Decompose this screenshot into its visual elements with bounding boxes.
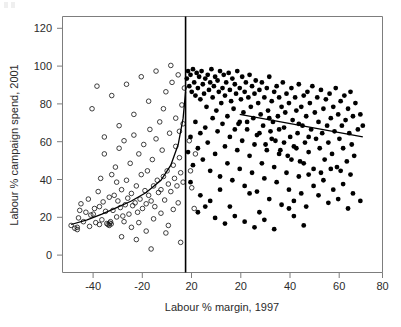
- data-point: [287, 187, 292, 192]
- data-point: [247, 191, 252, 196]
- data-point: [90, 106, 95, 111]
- data-point: [119, 234, 124, 239]
- data-point: [166, 223, 171, 228]
- data-point: [132, 133, 137, 138]
- data-point: [169, 189, 174, 194]
- data-point: [84, 210, 89, 215]
- data-point: [223, 144, 228, 149]
- data-point: [344, 159, 349, 164]
- data-point: [232, 82, 237, 87]
- data-point: [159, 211, 164, 216]
- data-point: [323, 97, 328, 102]
- data-point: [307, 101, 312, 106]
- data-point: [358, 199, 363, 204]
- data-point: [240, 138, 245, 143]
- data-point: [348, 172, 353, 177]
- data-point: [245, 127, 250, 132]
- x-tick-label-zero: 20: [185, 280, 197, 292]
- data-point: [170, 80, 175, 85]
- data-point: [227, 88, 232, 93]
- data-point: [188, 72, 193, 77]
- data-point: [97, 204, 102, 209]
- data-point: [247, 153, 252, 158]
- data-point: [159, 187, 164, 192]
- y-tick-label-40: 40: [40, 174, 52, 186]
- data-point: [207, 88, 212, 93]
- data-point: [311, 167, 316, 172]
- data-point: [303, 140, 308, 145]
- data-point: [122, 219, 127, 224]
- data-point: [245, 120, 250, 125]
- data-point: [272, 227, 277, 232]
- data-point: [261, 123, 266, 128]
- data-point: [199, 69, 204, 74]
- left-fit-curve: [71, 92, 185, 225]
- data-point: [259, 161, 264, 166]
- data-point: [211, 84, 216, 89]
- data-point: [226, 71, 231, 76]
- data-point: [242, 219, 247, 224]
- data-point: [223, 221, 228, 226]
- data-point: [304, 114, 309, 119]
- x-tick-label-80: 80: [376, 280, 388, 292]
- data-point: [322, 157, 327, 162]
- data-point: [172, 176, 177, 181]
- data-point: [299, 191, 304, 196]
- data-point: [310, 84, 315, 89]
- data-point: [193, 120, 198, 125]
- data-point: [192, 80, 197, 85]
- data-point: [176, 73, 181, 78]
- data-point: [220, 86, 225, 91]
- data-point: [193, 93, 198, 98]
- data-point: [353, 101, 358, 106]
- figure-container: 0 20 40 60 80 100 120 -40 -20 20 20 40: [0, 0, 401, 327]
- data-point: [200, 82, 205, 87]
- x-tick-label-60: 60: [333, 280, 345, 292]
- data-point: [325, 123, 330, 128]
- data-point: [287, 101, 292, 106]
- data-point: [274, 84, 279, 89]
- data-point: [342, 93, 347, 98]
- data-point: [121, 214, 126, 219]
- data-point: [279, 202, 284, 207]
- data-point: [215, 129, 220, 134]
- data-point: [141, 142, 146, 147]
- data-point: [330, 152, 335, 157]
- data-point: [114, 215, 119, 220]
- data-point: [263, 142, 268, 147]
- data-point: [299, 104, 304, 109]
- data-point: [191, 67, 196, 72]
- data-point: [232, 214, 237, 219]
- data-point: [188, 135, 193, 140]
- data-point: [195, 86, 200, 91]
- data-point: [169, 63, 174, 68]
- y-tick-label-120: 120: [34, 22, 52, 34]
- data-point: [246, 95, 251, 100]
- data-point: [252, 91, 257, 96]
- x-tick-label-minus20: -20: [134, 280, 150, 292]
- data-point: [339, 123, 344, 128]
- data-point: [287, 206, 292, 211]
- data-point: [135, 210, 140, 215]
- data-point: [242, 89, 247, 94]
- data-point: [102, 152, 107, 157]
- data-point: [235, 148, 240, 153]
- data-point: [171, 207, 176, 212]
- data-point: [293, 95, 298, 100]
- data-point: [262, 217, 267, 222]
- data-point: [306, 135, 311, 140]
- data-point: [130, 203, 135, 208]
- data-point: [220, 121, 225, 126]
- data-point: [218, 187, 223, 192]
- data-point: [86, 197, 91, 202]
- data-point: [252, 225, 257, 230]
- data-point: [284, 170, 289, 175]
- data-point: [319, 88, 324, 93]
- data-point: [114, 180, 119, 185]
- data-point: [195, 210, 200, 215]
- data-point: [319, 170, 324, 175]
- y-tick-label-80: 80: [40, 98, 52, 110]
- data-point: [204, 104, 209, 109]
- data-point: [144, 229, 149, 234]
- data-point: [227, 204, 232, 209]
